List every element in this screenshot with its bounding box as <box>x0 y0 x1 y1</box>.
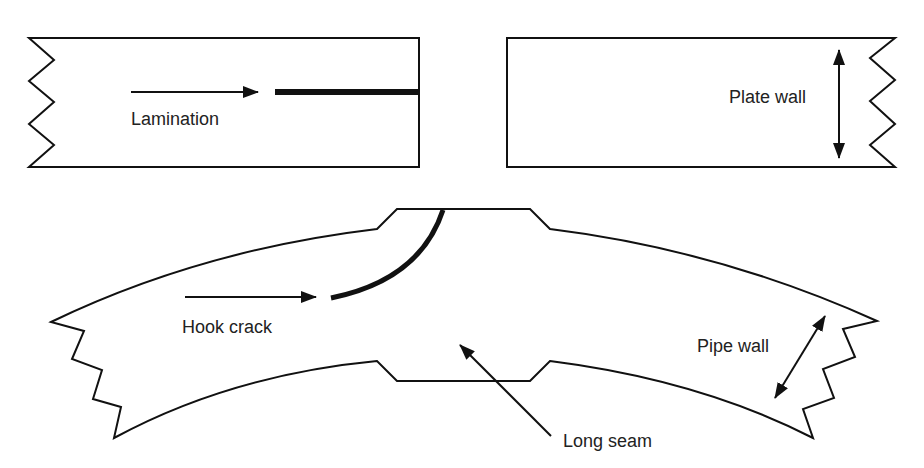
lamination-label: Lamination <box>131 109 219 129</box>
pipe-defect-diagram: Lamination Plate wall Hook crack Pipe wa… <box>0 0 924 468</box>
long-seam-label: Long seam <box>563 431 652 451</box>
long-seam-arrow <box>460 345 551 436</box>
pipe-wall-label: Pipe wall <box>697 336 769 356</box>
plate-right: Plate wall <box>507 38 895 167</box>
plate-left-outline <box>29 38 419 167</box>
plate-right-outline <box>507 38 895 167</box>
plate-left: Lamination <box>29 38 419 167</box>
hook-crack-defect <box>331 210 443 298</box>
pipe-outline <box>51 209 877 438</box>
plate-wall-label: Plate wall <box>729 87 806 107</box>
pipe-section: Hook crack Pipe wall Long seam <box>51 209 877 451</box>
pipe-wall-arrow <box>775 316 825 398</box>
hook-crack-label: Hook crack <box>182 317 273 337</box>
